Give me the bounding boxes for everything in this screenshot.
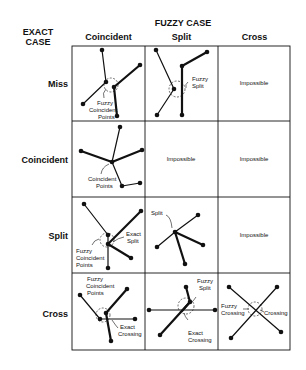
impossible-miss-cross: Impossible bbox=[240, 80, 269, 86]
cell-coincident-coincident: CoincidentPoints bbox=[79, 125, 145, 189]
case-matrix-diagram: FuzzyCoincidentPoints FuzzySplit Impossi… bbox=[0, 0, 306, 370]
cell-cross-split: FuzzySplit ExactCrossing bbox=[147, 278, 218, 343]
fuzzy-coincident-label-1: FuzzyCoincidentPoints bbox=[89, 100, 118, 120]
impossible-coincident-cross: Impossible bbox=[240, 156, 269, 162]
split-label: Split bbox=[151, 210, 163, 216]
cell-split-coincident: ExactSplit FuzzyCoincidentPoints bbox=[76, 202, 143, 271]
impossible-coincident-split: Impossible bbox=[167, 156, 196, 162]
coincident-points-label: CoincidentPoints bbox=[88, 176, 117, 189]
fuzzy-split-label-2: FuzzySplit bbox=[197, 278, 213, 291]
impossible-split-cross: Impossible bbox=[240, 232, 269, 238]
fuzzy-coincident-label-3: FuzzyCoincidentPoints bbox=[86, 276, 115, 296]
cell-split-split: Split bbox=[151, 210, 205, 266]
fuzzy-split-label-1: FuzzySplit bbox=[192, 76, 208, 89]
cell-miss-split: FuzzySplit bbox=[154, 48, 210, 118]
exact-split-label: ExactSplit bbox=[126, 231, 141, 244]
fuzzy-coincident-label-2: FuzzyCoincidentPoints bbox=[76, 248, 105, 268]
fuzzy-crossing-label: FuzzyCrossing bbox=[221, 303, 245, 316]
cell-cross-cross: FuzzyCrossing Crossing bbox=[221, 285, 288, 341]
cell-cross-coincident: FuzzyCoincidentPoints ExactCrossing bbox=[78, 276, 142, 343]
cell-miss-coincident: FuzzyCoincidentPoints bbox=[81, 48, 143, 120]
crossing-label: Crossing bbox=[264, 310, 288, 316]
exact-crossing-label-1: ExactCrossing bbox=[118, 324, 142, 337]
exact-crossing-label-2: ExactCrossing bbox=[188, 330, 212, 343]
